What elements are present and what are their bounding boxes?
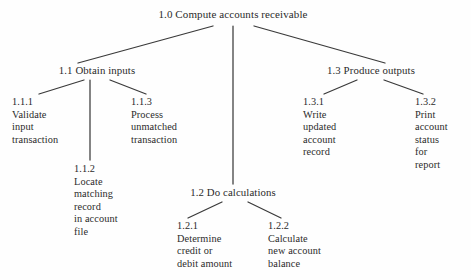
node-1-1-obtain-inputs: 1.1 Obtain inputs (59, 64, 135, 77)
edge-root-to-produce-outputs (254, 26, 385, 63)
edge-root-to-obtain-inputs (78, 26, 213, 63)
edge-produce-to-write (324, 80, 357, 94)
edge-obtain-to-process (110, 80, 146, 94)
node-1-2-1-determine-credit-or-debit: 1.2.1 Determine credit or debit amount (177, 220, 232, 270)
node-1-2-do-calculations: 1.2 Do calculations (190, 186, 276, 199)
diagram-canvas: 1.0 Compute accounts receivable 1.1 Obta… (0, 0, 471, 280)
node-1-1-1-validate-input-transaction: 1.1.1 Validate input transaction (12, 96, 58, 146)
node-1-0-compute-accounts-receivable: 1.0 Compute accounts receivable (158, 8, 307, 21)
edge-produce-to-print (384, 80, 423, 94)
node-1-1-3-process-unmatched-transaction: 1.1.3 Process unmatched transaction (131, 96, 177, 146)
edge-calculations-to-calculate (248, 202, 281, 218)
node-1-2-2-calculate-new-account-balance: 1.2.2 Calculate new account balance (268, 220, 321, 270)
node-1-3-1-write-updated-account-record: 1.3.1 Write updated account record (303, 96, 336, 159)
edge-calculations-to-determine (188, 202, 222, 218)
node-1-3-2-print-account-status-for-report: 1.3.2 Print account status for report (415, 96, 448, 172)
node-1-1-2-locate-matching-record: 1.1.2 Locate matching record in account … (74, 163, 118, 239)
node-1-3-produce-outputs: 1.3 Produce outputs (327, 64, 415, 77)
edge-obtain-to-validate (39, 80, 84, 94)
connector-lines (0, 0, 471, 280)
